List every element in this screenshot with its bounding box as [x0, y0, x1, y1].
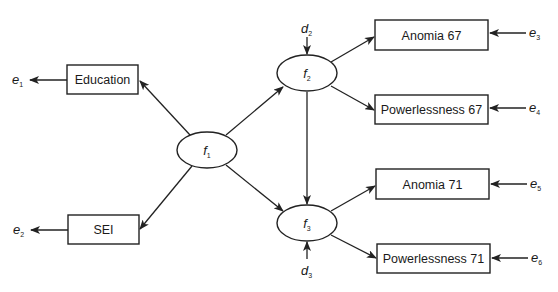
svg-text:Powerlessness 71: Powerlessness 71 — [383, 252, 484, 266]
path-f1-f3 — [226, 165, 283, 211]
svg-text:Education: Education — [75, 73, 131, 87]
path-f2-powerlessness67 — [331, 86, 374, 110]
box-sei: SEI — [68, 215, 139, 244]
box-education: Education — [67, 65, 138, 94]
path-f1-f2 — [226, 87, 283, 135]
error-e4: e4 — [529, 100, 540, 116]
box-anomia71: Anomia 71 — [376, 169, 489, 199]
path-f3-anomia71 — [331, 186, 375, 211]
svg-text:Anomia 71: Anomia 71 — [403, 178, 463, 192]
path-f1-sei — [140, 166, 192, 229]
svg-text:SEI: SEI — [93, 223, 113, 237]
svg-text:Anomia 67: Anomia 67 — [402, 29, 462, 43]
path-f3-powerlessness71 — [331, 235, 376, 258]
sem-path-diagram: f1 f2 f3 Education SEI Anomia 67 Powerle… — [0, 0, 558, 292]
box-anomia67: Anomia 67 — [375, 20, 488, 50]
disturbance-d3: d3 — [301, 263, 312, 279]
path-f2-anomia67 — [331, 37, 374, 62]
disturbance-d2: d2 — [301, 21, 312, 37]
error-e2: e2 — [13, 222, 24, 238]
factor-f2: f2 — [277, 55, 337, 91]
svg-text:Powerlessness 67: Powerlessness 67 — [381, 103, 482, 117]
box-powerlessness67: Powerlessness 67 — [375, 95, 488, 124]
error-e3: e3 — [529, 25, 540, 41]
factor-f3: f3 — [277, 205, 337, 241]
factor-f1: f1 — [177, 132, 237, 168]
error-e6: e6 — [531, 250, 542, 266]
path-f1-education — [140, 81, 190, 135]
error-e1: e1 — [12, 72, 23, 88]
box-powerlessness71: Powerlessness 71 — [377, 244, 490, 273]
error-e5: e5 — [530, 176, 541, 192]
